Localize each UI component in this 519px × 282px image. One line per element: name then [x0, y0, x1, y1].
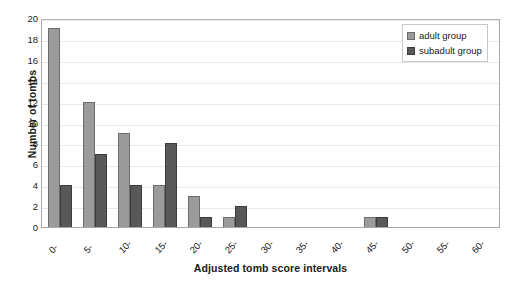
- x-axis-tick-35: 35-: [293, 238, 310, 255]
- legend-swatch-subadult-group: [407, 47, 415, 55]
- x-axis-tick-20: 20-: [187, 238, 204, 255]
- x-axis-tick-cell: 60-: [465, 229, 500, 259]
- x-axis-tick-cell: 10-: [112, 229, 147, 259]
- bar-group: [112, 20, 147, 227]
- legend-label-subadult-group: subadult group: [419, 45, 482, 56]
- x-axis-tick-cell: 45-: [359, 229, 394, 259]
- x-axis-tick-cell: 5-: [76, 229, 111, 259]
- bar-subadult-0: [60, 185, 72, 227]
- legend-label-adult-group: adult group: [419, 30, 467, 41]
- bar-subadult-20: [200, 217, 212, 227]
- x-axis-tick-cell: 50-: [394, 229, 429, 259]
- y-axis-tick-4: 4: [16, 181, 38, 191]
- bar-adult-5: [83, 102, 95, 227]
- x-axis-tick-labels: 0-5-10-15-20-25-30-35-40-45-50-55-60-: [41, 229, 500, 259]
- bar-subadult-10: [130, 185, 142, 227]
- x-axis-tick-cell: 35-: [288, 229, 323, 259]
- bar-group: [288, 20, 323, 227]
- x-axis-tick-cell: 40-: [324, 229, 359, 259]
- x-axis-tick-cell: 25-: [218, 229, 253, 259]
- x-axis-tick-10: 10-: [117, 238, 134, 255]
- x-axis-tick-30: 30-: [258, 238, 275, 255]
- x-axis-tick-cell: 15-: [147, 229, 182, 259]
- bar-adult-10: [118, 133, 130, 227]
- bar-subadult-5: [95, 154, 107, 227]
- y-axis-tick-2: 2: [16, 202, 38, 212]
- bar-group: [323, 20, 358, 227]
- x-axis-tick-5: 5-: [81, 242, 95, 256]
- x-axis-title: Adjusted tomb score intervals: [41, 262, 500, 274]
- legend-item-subadult-group: subadult group: [407, 43, 482, 58]
- x-axis-tick-40: 40-: [328, 238, 345, 255]
- chart-legend: adult group subadult group: [402, 24, 488, 62]
- bar-group: [218, 20, 253, 227]
- bar-subadult-45: [376, 217, 388, 227]
- y-axis-tick-20: 20: [16, 14, 38, 24]
- bar-group: [183, 20, 218, 227]
- x-axis-tick-cell: 20-: [182, 229, 217, 259]
- bar-adult-15: [153, 185, 165, 227]
- bar-adult-25: [223, 217, 235, 227]
- bar-adult-20: [188, 196, 200, 227]
- bar-group: [358, 20, 393, 227]
- x-axis-tick-0: 0-: [46, 242, 60, 256]
- y-axis-tick-14: 14: [16, 77, 38, 87]
- bar-group: [253, 20, 288, 227]
- bar-adult-0: [48, 28, 60, 227]
- y-axis-tick-labels: 02468101214161820: [16, 0, 38, 282]
- x-axis-tick-15: 15-: [152, 238, 169, 255]
- bar-subadult-25: [235, 206, 247, 227]
- y-axis-tick-18: 18: [16, 35, 38, 45]
- y-axis-tick-10: 10: [16, 119, 38, 129]
- x-axis-tick-cell: 0-: [41, 229, 76, 259]
- y-axis-tick-6: 6: [16, 161, 38, 171]
- x-axis-tick-50: 50-: [399, 238, 416, 255]
- bar-adult-45: [364, 217, 376, 227]
- x-axis-tick-25: 25-: [222, 238, 239, 255]
- x-axis-tick-45: 45-: [364, 238, 381, 255]
- x-axis-tick-55: 55-: [434, 238, 451, 255]
- legend-item-adult-group: adult group: [407, 28, 482, 43]
- x-axis-tick-cell: 30-: [253, 229, 288, 259]
- legend-swatch-adult-group: [407, 32, 415, 40]
- bar-subadult-15: [165, 143, 177, 227]
- bar-group: [147, 20, 182, 227]
- y-axis-tick-8: 8: [16, 140, 38, 150]
- y-axis-tick-12: 12: [16, 98, 38, 108]
- y-axis-tick-16: 16: [16, 56, 38, 66]
- x-axis-tick-60: 60-: [470, 238, 487, 255]
- bar-group: [77, 20, 112, 227]
- bar-group: [42, 20, 77, 227]
- x-axis-tick-cell: 55-: [429, 229, 464, 259]
- bar-chart-figure: Number of tombs 02468101214161820 0-5-10…: [0, 0, 519, 282]
- y-axis-tick-0: 0: [16, 223, 38, 233]
